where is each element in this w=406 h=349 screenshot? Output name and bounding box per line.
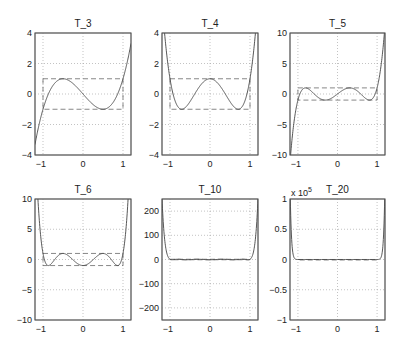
y-tick-label: 1 (282, 194, 287, 204)
x-tick-label: 1 (375, 159, 380, 169)
x-tick-label: −1 (163, 324, 173, 334)
y-tick-label: 5 (282, 59, 287, 69)
y-tick-label: 10 (277, 28, 287, 38)
chebyshev-figure: −101−4−2024T_3 −101−4−2024T_4 −101−10−50… (0, 0, 406, 349)
x-tick-label: 0 (207, 324, 212, 334)
y-tick-label: 0 (154, 89, 159, 99)
x-tick-label: −1 (163, 159, 173, 169)
x-tick-label: −1 (291, 159, 301, 169)
y-tick-label: −10 (272, 150, 287, 160)
y-tick-label: −2 (149, 120, 159, 130)
y-tick-label: −10 (17, 315, 32, 325)
subplot-t20: −101−1−0.500.51T_20x 105 (269, 183, 385, 335)
y-tick-label: −4 (22, 150, 32, 160)
x-tick-label: −1 (36, 159, 46, 169)
y-tick-label: −1 (277, 315, 287, 325)
x-tick-label: 0 (335, 324, 340, 334)
y-tick-label: 0 (282, 89, 287, 99)
subplot-title: T_5 (329, 18, 347, 29)
subplot-title: T_10 (199, 184, 222, 195)
y-tick-label: 100 (144, 230, 159, 240)
x-tick-label: 1 (375, 324, 380, 334)
subplot-t3: −101−4−2024T_3 (22, 18, 131, 169)
y-tick-label: −100 (139, 279, 159, 289)
subplot-t4: −101−4−2024T_4 (149, 1, 258, 169)
x-tick-label: 0 (80, 159, 85, 169)
x-tick-label: 0 (207, 159, 212, 169)
subplot-t5: −101−10−50510T_5 (272, 18, 385, 169)
y-tick-label: 0 (154, 255, 159, 265)
subplot-title: T_20 (326, 184, 349, 195)
subplot-title: T_4 (201, 18, 219, 29)
y-tick-label: 2 (27, 59, 32, 69)
y-tick-label: 0.5 (274, 224, 287, 234)
y-tick-label: 4 (154, 28, 159, 38)
y-tick-label: −4 (149, 150, 159, 160)
y-tick-label: −200 (139, 303, 159, 313)
x-tick-label: −1 (36, 324, 46, 334)
subplot-t6: −101−10−50510T_6 (17, 133, 131, 334)
x-tick-label: 1 (120, 324, 125, 334)
y-tick-label: −2 (22, 120, 32, 130)
y-tick-label: 0 (282, 255, 287, 265)
y-tick-label: −5 (277, 120, 287, 130)
x-tick-label: 1 (247, 159, 252, 169)
subplot-t10: −101−200−1000100200T_10 (139, 184, 258, 334)
subplot-title: T_6 (74, 184, 92, 195)
x-tick-label: −1 (291, 324, 301, 334)
x-tick-label: 1 (120, 159, 125, 169)
subplot-title: T_3 (74, 18, 92, 29)
y-tick-label: −5 (22, 285, 32, 295)
x-tick-label: 1 (247, 324, 252, 334)
y-tick-label: 0 (27, 89, 32, 99)
y-tick-label: 2 (154, 59, 159, 69)
x-tick-label: 0 (335, 159, 340, 169)
y-tick-label: 10 (22, 194, 32, 204)
axis-multiplier: x 105 (291, 186, 312, 198)
y-tick-label: 4 (27, 28, 32, 38)
y-tick-label: 200 (144, 206, 159, 216)
y-tick-label: 5 (27, 224, 32, 234)
y-tick-label: 0 (27, 255, 32, 265)
x-tick-label: 0 (80, 324, 85, 334)
y-tick-label: −0.5 (269, 285, 287, 295)
